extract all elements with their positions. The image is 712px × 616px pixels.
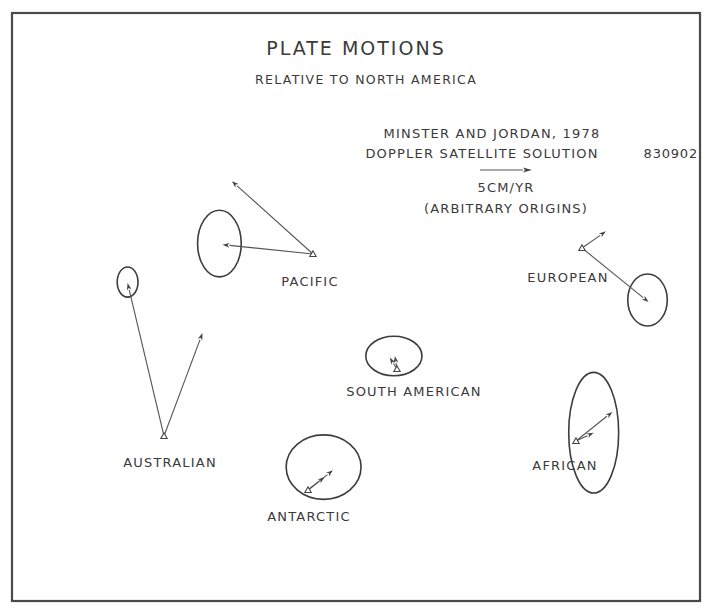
velocity-vector-shaft: [576, 416, 607, 441]
velocity-vector: [223, 243, 313, 254]
plate-antarctic: ANTARCTIC: [267, 435, 361, 524]
plate-label: PACIFIC: [281, 274, 338, 289]
error-ellipse: [286, 435, 361, 499]
velocity-vector-head: [198, 333, 203, 340]
velocity-vector-shaft: [129, 290, 164, 436]
legend-scale-label: 5CM/YR: [477, 180, 534, 195]
plate-label: SOUTH AMERICAN: [346, 384, 482, 399]
error-ellipse: [628, 274, 668, 326]
legend-id-code: 830902: [644, 146, 698, 161]
error-ellipse: [198, 210, 242, 277]
legend-solution: DOPPLER SATELLITE SOLUTION: [365, 146, 598, 161]
diagram-subtitle: RELATIVE TO NORTH AMERICA: [255, 72, 477, 87]
plate-label: AUSTRALIAN: [123, 455, 217, 470]
velocity-vector-shaft: [237, 186, 313, 254]
origin-marker: [161, 433, 167, 439]
scale-arrow-icon: [480, 168, 532, 173]
plate-label: AFRICAN: [532, 458, 597, 473]
velocity-vector-head: [586, 433, 593, 438]
origin-marker: [579, 245, 585, 251]
velocity-vector-shaft: [582, 235, 600, 248]
plate-motions-diagram: PLATE MOTIONS RELATIVE TO NORTH AMERICA …: [0, 0, 712, 616]
velocity-vector: [164, 333, 202, 436]
diagram-frame: [12, 13, 700, 601]
error-ellipse: [366, 336, 422, 376]
velocity-vector: [232, 181, 313, 254]
diagram-title: PLATE MOTIONS: [266, 37, 445, 59]
velocity-vector-shaft: [229, 245, 313, 254]
plate-label: EUROPEAN: [527, 270, 608, 285]
velocity-vector: [582, 231, 606, 248]
plate-pacific: PACIFIC: [198, 181, 339, 289]
velocity-vector-head: [394, 356, 399, 363]
velocity-vector-head: [599, 231, 606, 237]
plate-african: AFRICAN: [532, 372, 618, 493]
velocity-vector-head: [127, 283, 132, 290]
velocity-vector: [308, 477, 325, 490]
velocity-vector: [127, 283, 164, 436]
plate-label: ANTARCTIC: [267, 509, 351, 524]
legend-note: (ARBITRARY ORIGINS): [424, 201, 588, 216]
plates-layer: PACIFICAUSTRALIANSOUTH AMERICANEUROPEANA…: [117, 181, 667, 524]
velocity-vector: [576, 412, 612, 441]
scale-arrow: [480, 168, 532, 173]
velocity-vector-head: [223, 243, 230, 248]
scale-arrow-head: [523, 168, 532, 173]
error-ellipse: [117, 267, 138, 297]
velocity-vector-shaft: [164, 340, 200, 436]
error-ellipse: [569, 372, 619, 493]
plate-australian: AUSTRALIAN: [117, 267, 217, 470]
plate-european: EUROPEAN: [527, 231, 667, 326]
origin-marker: [394, 366, 400, 372]
legend-source: MINSTER AND JORDAN, 1978: [384, 126, 601, 141]
plate-south-american: SOUTH AMERICAN: [346, 336, 482, 399]
diagram-canvas: PLATE MOTIONS RELATIVE TO NORTH AMERICA …: [0, 0, 712, 616]
